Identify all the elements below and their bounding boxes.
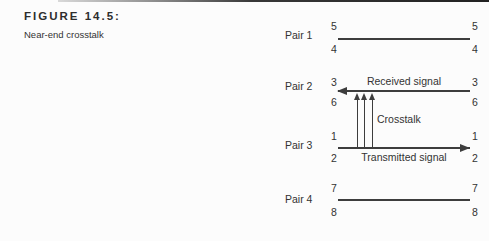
wire-number-left-bottom: 2 — [326, 152, 342, 165]
wire-number-left-top: 7 — [326, 182, 342, 195]
figure-title: FIGURE 14.5: — [24, 10, 121, 22]
crosstalk-label: Crosstalk — [377, 113, 421, 126]
wire-number-right-top: 5 — [467, 20, 483, 33]
wire-number-right-top: 3 — [467, 76, 483, 89]
wire-number-left-bottom: 8 — [326, 206, 342, 219]
wire-number-left-bottom: 4 — [326, 43, 342, 56]
left-arrowhead-icon — [337, 87, 347, 95]
wire-line — [338, 90, 470, 92]
wire-number-right-bottom: 4 — [467, 43, 483, 56]
wire-line — [338, 147, 470, 149]
pair-label: Pair 4 — [285, 193, 319, 206]
crosstalk-arrow — [357, 100, 358, 147]
top-rule — [58, 0, 489, 2]
wire-number-left-bottom: 6 — [326, 96, 342, 109]
transmitted-signal-label: Transmitted signal — [349, 151, 459, 164]
crosstalk-arrow — [364, 100, 365, 147]
figure-caption: Near-end crosstalk — [24, 29, 104, 40]
pair-label: Pair 1 — [285, 29, 319, 42]
crosstalk-arrowhead-icon — [369, 93, 375, 100]
wire-number-left-top: 1 — [326, 130, 342, 143]
pair-label: Pair 3 — [285, 139, 319, 152]
wire-number-right-bottom: 6 — [467, 96, 483, 109]
crosstalk-arrow — [372, 100, 373, 147]
wire-number-right-top: 1 — [467, 130, 483, 143]
wire-line — [338, 38, 470, 40]
crosstalk-arrowhead-icon — [354, 93, 360, 100]
right-arrowhead-icon — [460, 144, 470, 152]
wire-number-right-bottom: 2 — [467, 152, 483, 165]
received-signal-label: Received signal — [354, 75, 454, 88]
figure-page: FIGURE 14.5: Near-end crosstalk Pair 1 5… — [0, 0, 489, 241]
wire-number-right-top: 7 — [467, 182, 483, 195]
wire-number-right-bottom: 8 — [467, 206, 483, 219]
wire-number-left-top: 5 — [326, 20, 342, 33]
pair-label: Pair 2 — [285, 80, 319, 93]
wire-line — [338, 199, 470, 201]
crosstalk-arrowhead-icon — [361, 93, 367, 100]
